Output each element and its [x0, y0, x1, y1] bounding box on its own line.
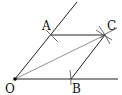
- label-a: A: [41, 19, 51, 33]
- parallelogram-diagram: A C O B: [0, 0, 122, 95]
- label-c: C: [107, 19, 116, 33]
- point-o: [13, 77, 17, 81]
- label-o: O: [5, 82, 15, 95]
- arc-mark-b: [70, 70, 71, 85]
- label-b: B: [72, 82, 81, 95]
- segment-bc: [71, 35, 105, 79]
- ray-oa: [15, 2, 77, 79]
- diagonal-oc: [15, 35, 105, 79]
